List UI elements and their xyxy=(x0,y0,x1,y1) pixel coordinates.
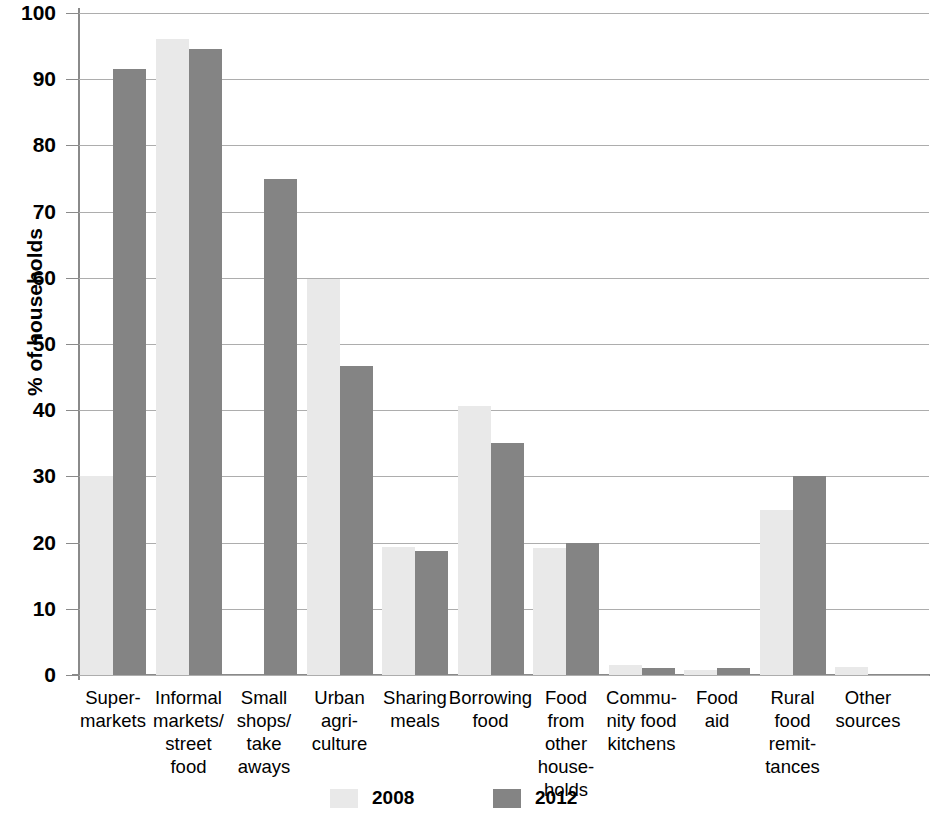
bar-2012 xyxy=(491,443,524,675)
bar-group xyxy=(80,13,146,675)
bar-2012 xyxy=(793,476,826,675)
x-axis-category-label: Other sources xyxy=(825,686,911,732)
bar-group xyxy=(684,13,750,675)
bar-chart: % of households 1009080706050403020100 S… xyxy=(0,0,934,817)
bar-2012 xyxy=(189,49,222,675)
y-axis-tick-label: 30 xyxy=(0,465,56,486)
y-axis-tick-label: 20 xyxy=(0,532,56,553)
y-axis-tick-label: 40 xyxy=(0,399,56,420)
x-axis-category-label: Small shops/ take aways xyxy=(221,686,307,778)
x-axis-category-label: Food from other house- holds xyxy=(523,686,609,801)
x-axis-category-label: Rural food remit- tances xyxy=(750,686,836,778)
bar-2012 xyxy=(642,668,675,675)
legend-swatch-2012 xyxy=(493,789,521,808)
bar-2008 xyxy=(307,279,340,675)
plot-bars xyxy=(78,13,929,675)
x-axis-category-label: Urban agri- culture xyxy=(297,686,383,755)
legend-swatch-2008 xyxy=(330,789,358,808)
bar-2008 xyxy=(609,665,642,675)
chart-legend: 20082012 xyxy=(0,787,934,817)
bar-2008 xyxy=(533,548,566,675)
bar-group xyxy=(307,13,373,675)
legend-label: 2008 xyxy=(372,787,414,809)
bar-2008 xyxy=(835,667,868,675)
bar-2008 xyxy=(458,406,491,675)
y-axis-tick-label: 60 xyxy=(0,267,56,288)
bar-group xyxy=(382,13,448,675)
y-axis-tick-label: 50 xyxy=(0,333,56,354)
y-axis-tick-label: 0 xyxy=(0,664,56,685)
bar-2008 xyxy=(382,547,415,675)
bar-2012 xyxy=(717,668,750,675)
bar-group xyxy=(533,13,599,675)
bar-group xyxy=(231,13,297,675)
bar-group xyxy=(760,13,826,675)
y-axis-tick xyxy=(66,675,79,676)
bar-2008 xyxy=(80,476,113,675)
x-axis-category-label: Sharing meals xyxy=(372,686,458,732)
bar-2012 xyxy=(113,69,146,675)
bar-group xyxy=(835,13,901,675)
bar-2008 xyxy=(760,510,793,676)
x-axis-category-label: Informal markets/ street food xyxy=(146,686,232,778)
bar-2012 xyxy=(415,551,448,675)
gridline xyxy=(78,675,929,676)
y-axis-tick-label: 80 xyxy=(0,134,56,155)
bar-group xyxy=(458,13,524,675)
bar-2012 xyxy=(566,543,599,675)
x-axis-category-label: Food aid xyxy=(674,686,760,732)
bar-group xyxy=(609,13,675,675)
y-axis-tick-label: 90 xyxy=(0,68,56,89)
y-axis-tick-label: 10 xyxy=(0,598,56,619)
bar-group xyxy=(156,13,222,675)
x-axis-category-label: Commu- nity food kitchens xyxy=(599,686,685,755)
bar-2012 xyxy=(340,366,373,675)
x-axis-category-label: Super- markets xyxy=(70,686,156,732)
legend-item-2012: 2012 xyxy=(493,787,577,809)
legend-label: 2012 xyxy=(535,787,577,809)
bar-2008 xyxy=(156,39,189,675)
bar-2012 xyxy=(264,179,297,676)
legend-item-2008: 2008 xyxy=(330,787,414,809)
bar-2008 xyxy=(684,670,717,675)
y-axis-tick-label: 70 xyxy=(0,201,56,222)
y-axis-tick-label: 100 xyxy=(0,2,56,23)
x-axis-category-label: Borrowing food xyxy=(448,686,534,732)
x-axis-category-labels: Super- marketsInformal markets/ street f… xyxy=(78,686,929,786)
